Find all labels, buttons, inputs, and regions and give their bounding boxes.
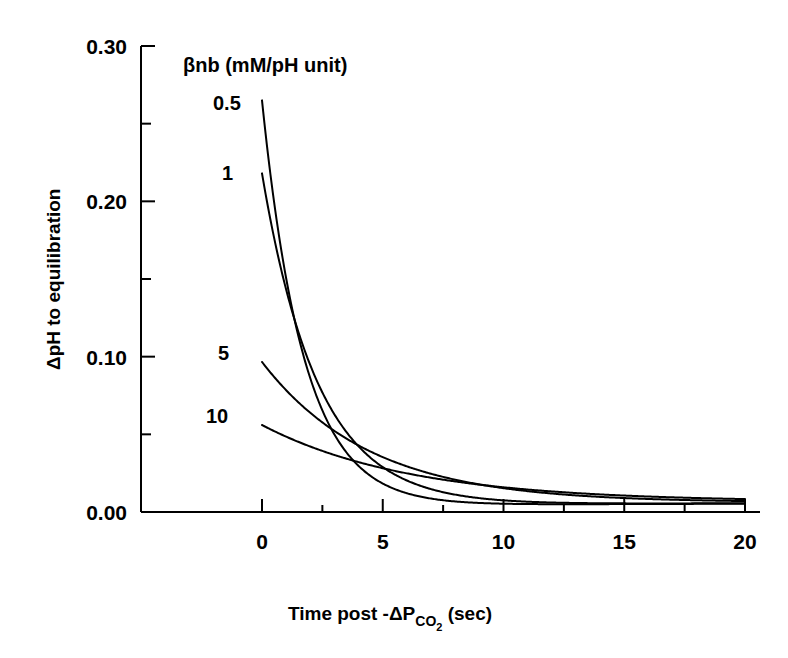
x-axis-title-sub: CO [415, 613, 436, 629]
curve-label-1: 1 [222, 162, 233, 184]
x-tick-label: 0 [256, 530, 268, 553]
curve-labels: 0.51510 [206, 92, 241, 427]
y-tick-label: 0.30 [86, 35, 127, 58]
x-axis-title-main: Time post -ΔP [288, 603, 416, 624]
y-tick-label: 0.10 [86, 346, 127, 369]
figure-container: 0.000.100.200.30 05101520 0.51510 βnb (m… [0, 0, 788, 658]
data-curves [262, 100, 745, 504]
y-tick-label: 0.00 [86, 501, 127, 524]
x-axis-title: Time post -ΔPCO2 (sec) [288, 603, 492, 633]
data-curve-0.5 [262, 100, 745, 504]
data-curve-5 [262, 362, 745, 501]
x-axis-title-tail: (sec) [442, 603, 492, 624]
x-tick-label: 15 [613, 530, 637, 553]
y-axis-title: ΔpH to equilibration [43, 189, 64, 370]
curve-label-5: 5 [218, 342, 229, 364]
data-curve-1 [262, 173, 745, 503]
x-tick-label: 5 [377, 530, 389, 553]
curve-label-0.5: 0.5 [213, 92, 241, 114]
curve-label-10: 10 [206, 405, 228, 427]
chart-canvas: 0.000.100.200.30 05101520 0.51510 βnb (m… [0, 0, 788, 658]
x-tick-label: 20 [733, 530, 756, 553]
x-tick-label: 10 [492, 530, 515, 553]
y-axis-ticks [141, 46, 155, 512]
x-axis-tick-labels: 05101520 [256, 530, 757, 553]
legend-title: βnb (mM/pH unit) [183, 54, 347, 76]
y-tick-label: 0.20 [86, 190, 127, 213]
y-axis-tick-labels: 0.000.100.200.30 [86, 35, 127, 524]
